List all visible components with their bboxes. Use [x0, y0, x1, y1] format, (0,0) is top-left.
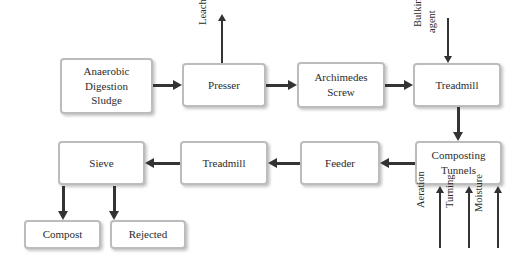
node-line: Compost [43, 227, 83, 242]
node-presser: Presser [182, 63, 266, 107]
node-line: Anaerobic [84, 64, 130, 79]
edge-label-aeration: Aeration [415, 171, 426, 208]
arrow-treadmill-top-to-composting [451, 107, 465, 141]
node-line: Rejected [129, 227, 167, 242]
edge-label-bulking: Bulking [412, 0, 423, 27]
arrow-sieve-to-rejected [107, 186, 121, 220]
arrow-sieve-to-compost [56, 186, 70, 220]
node-line: Archimedes [314, 70, 367, 85]
edge-label-agent: agent [426, 10, 437, 33]
node-line: Sieve [89, 156, 113, 171]
node-line: Treadmill [436, 78, 479, 93]
arrow-bulking-agent-into-treadmill [442, 18, 454, 63]
node-line: Composting [432, 148, 486, 163]
arrow-treadmill-bottom-to-sieve [145, 155, 180, 171]
arrow-moisture-into-composting [492, 186, 504, 248]
arrow-anaerobic-to-presser [153, 77, 182, 93]
node-line: Feeder [325, 156, 355, 171]
node-sieve: Sieve [58, 141, 145, 185]
node-compost: Compost [24, 220, 101, 249]
node-line: Treadmill [203, 156, 246, 171]
edge-label-turning: Turning [444, 175, 455, 208]
node-archimedes-screw: Archimedes Screw [297, 62, 385, 108]
node-treadmill-bottom: Treadmill [180, 141, 268, 185]
node-line: Sludge [91, 93, 122, 108]
arrow-archimedes-to-treadmill-top [385, 77, 413, 93]
node-treadmill-top: Treadmill [413, 63, 501, 107]
node-rejected: Rejected [110, 220, 186, 249]
edge-label-leachate: Leachate [197, 0, 208, 25]
arrow-presser-leachate-out [216, 14, 228, 63]
edge-label-moisture: Moisture [473, 174, 484, 212]
flowchart-canvas: Anaerobic Digestion Sludge Presser Archi… [0, 0, 522, 262]
arrow-presser-to-archimedes [266, 77, 297, 93]
node-line: Digestion [85, 79, 128, 94]
node-line: Presser [208, 78, 240, 93]
node-anaerobic-digestion-sludge: Anaerobic Digestion Sludge [60, 58, 153, 114]
arrow-feeder-to-treadmill-bottom [268, 155, 300, 171]
node-composting-tunnels: Composting Tunnels [415, 141, 502, 185]
node-line: Screw [327, 85, 355, 100]
arrow-composting-to-feeder [380, 155, 415, 171]
node-feeder: Feeder [300, 141, 380, 185]
